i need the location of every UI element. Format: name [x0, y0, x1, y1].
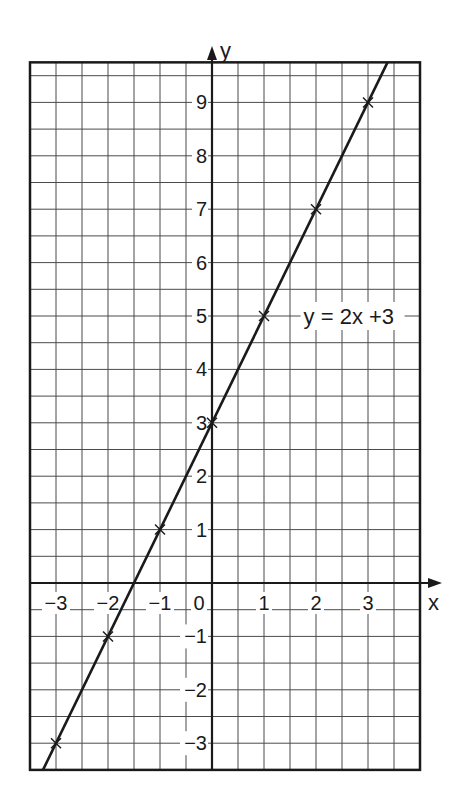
- y-tick-label: 3: [196, 412, 207, 434]
- x-axis-arrow-icon: [428, 578, 442, 588]
- data-series: [43, 62, 388, 770]
- grid-border: [30, 62, 420, 770]
- equation-annotation: y = 2x +3: [301, 302, 405, 330]
- x-tick-label: −2: [97, 592, 120, 614]
- axes: [30, 46, 442, 770]
- y-axis-arrow-icon: [207, 46, 217, 60]
- y-tick-label: −3: [184, 732, 207, 754]
- y-tick-label: 5: [196, 305, 207, 327]
- y-tick-label: 1: [196, 519, 207, 541]
- y-tick-label: 9: [196, 91, 207, 113]
- x-tick-label: −1: [149, 592, 172, 614]
- x-tick-label: 0: [193, 592, 204, 614]
- grid-lines: [30, 62, 420, 770]
- series-line: [43, 62, 388, 770]
- line-graph: −3−2−10123 −3−2−1123456789 x y y = 2x +3: [0, 0, 472, 807]
- y-tick-label: −1: [184, 625, 207, 647]
- y-tick-label: 2: [196, 465, 207, 487]
- x-tick-label: 3: [362, 592, 373, 614]
- y-tick-label: 6: [196, 252, 207, 274]
- equation-label: y = 2x +3: [304, 304, 395, 329]
- x-tick-label: −3: [45, 592, 68, 614]
- y-tick-label: 8: [196, 145, 207, 167]
- x-tick-label: 2: [310, 592, 321, 614]
- x-tick-labels: −3−2−10123: [45, 592, 374, 614]
- x-tick-label: 1: [258, 592, 269, 614]
- x-axis-label: x: [428, 590, 439, 615]
- y-tick-label: 4: [196, 358, 207, 380]
- y-tick-label: 7: [196, 198, 207, 220]
- y-tick-label: −2: [184, 679, 207, 701]
- y-axis-label: y: [220, 38, 231, 63]
